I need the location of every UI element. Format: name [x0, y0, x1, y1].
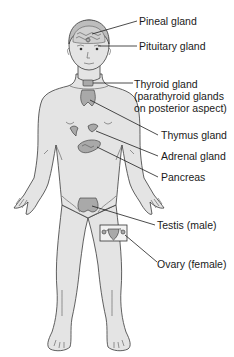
- pineal-pituitary-region: [86, 38, 90, 42]
- left-leg: [48, 205, 88, 351]
- label-thyroid-parathyroid-note-2: on posterior aspect): [134, 102, 227, 114]
- thyroid-gland: [83, 80, 93, 86]
- label-ovary: Ovary (female): [157, 258, 226, 270]
- testes: [78, 198, 98, 212]
- ovary-right: [121, 230, 125, 234]
- label-thymus-gland: Thymus gland: [161, 129, 227, 141]
- ovary-left: [102, 230, 106, 234]
- label-pituitary-gland: Pituitary gland: [139, 40, 206, 52]
- label-adrenal-gland: Adrenal gland: [161, 150, 226, 162]
- label-thyroid-gland: Thyroid gland: [134, 78, 198, 90]
- left-eye: [80, 48, 83, 51]
- leader-ovary: [125, 235, 157, 262]
- label-pineal-gland: Pineal gland: [139, 15, 197, 27]
- label-testis: Testis (male): [157, 219, 217, 231]
- label-pancreas: Pancreas: [161, 171, 205, 183]
- right-eye: [96, 48, 99, 51]
- label-thyroid-parathyroid-note-1: (parathyroid glands: [134, 90, 224, 102]
